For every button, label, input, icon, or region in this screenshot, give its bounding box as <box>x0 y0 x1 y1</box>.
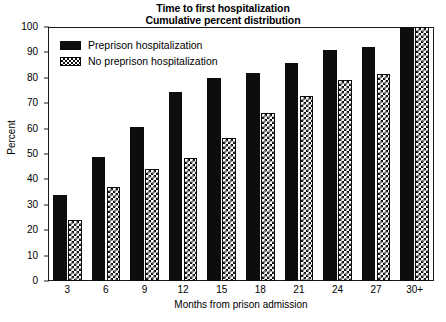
chart-title-block: Time to first hospitalization Cumulative… <box>0 3 446 26</box>
x-axis-tick-label: 3 <box>65 284 71 296</box>
legend-swatch-hatch <box>60 57 81 66</box>
bar-checkerboard-21 <box>300 96 314 281</box>
x-axis-tick-label: 21 <box>293 284 304 296</box>
y-axis-tick-label: 0 <box>32 276 38 286</box>
y-axis-tick-label: 50 <box>27 149 38 159</box>
bar-checkerboard-24 <box>338 80 352 281</box>
bar-solid-27 <box>362 47 376 281</box>
y-axis-tick-label: 20 <box>27 225 38 235</box>
bar-checkerboard-30plus <box>415 27 429 281</box>
chart-subtitle: Cumulative percent distribution <box>0 15 446 27</box>
bar-solid-6 <box>92 157 106 281</box>
bar-solid-24 <box>323 50 337 281</box>
x-axis: 36912151821242730+ <box>48 284 434 300</box>
bar-checkerboard-12 <box>184 158 198 281</box>
x-axis-tick-label: 6 <box>103 284 109 296</box>
legend-item: Preprison hospitalization <box>60 38 218 52</box>
y-axis-tick-label: 80 <box>27 73 38 83</box>
x-axis-tick-label: 27 <box>371 284 382 296</box>
y-axis-tick-label: 10 <box>27 251 38 261</box>
legend-label: No preprison hospitalization <box>88 56 218 67</box>
x-axis-tick-label: 24 <box>332 284 343 296</box>
y-axis-tick-label: 70 <box>27 98 38 108</box>
chart-figure: Time to first hospitalization Cumulative… <box>0 0 446 322</box>
x-axis-tick-label: 30+ <box>406 284 423 296</box>
y-axis-title: Percent <box>6 103 17 173</box>
x-axis-title: Months from prison admission <box>48 299 434 310</box>
bar-solid-18 <box>246 73 260 281</box>
y-axis-tick-label: 40 <box>27 174 38 184</box>
bar-checkerboard-9 <box>145 169 159 281</box>
bar-solid-30plus <box>400 27 414 281</box>
bar-checkerboard-27 <box>377 74 391 281</box>
y-axis-tick-label: 100 <box>21 22 38 32</box>
bar-solid-3 <box>53 195 67 281</box>
chart-title: Time to first hospitalization <box>0 3 446 15</box>
x-axis-tick-label: 18 <box>255 284 266 296</box>
x-axis-tick-label: 15 <box>216 284 227 296</box>
bar-solid-12 <box>169 92 183 281</box>
bar-solid-21 <box>285 63 299 281</box>
y-axis-tick-label: 30 <box>27 200 38 210</box>
legend-label: Preprison hospitalization <box>88 40 202 51</box>
bar-checkerboard-6 <box>107 187 121 281</box>
y-axis-tick-label: 90 <box>27 47 38 57</box>
x-axis-tick-label: 9 <box>142 284 148 296</box>
bar-solid-15 <box>207 78 221 281</box>
bar-checkerboard-15 <box>222 138 236 282</box>
legend-swatch-solid <box>60 41 81 50</box>
x-axis-tick-label: 12 <box>178 284 189 296</box>
bar-checkerboard-18 <box>261 113 275 281</box>
bar-solid-9 <box>130 127 144 281</box>
bar-checkerboard-3 <box>68 220 82 281</box>
legend-item: No preprison hospitalization <box>60 54 218 68</box>
y-axis-tick-label: 60 <box>27 124 38 134</box>
chart-legend: Preprison hospitalizationNo preprison ho… <box>60 38 218 70</box>
